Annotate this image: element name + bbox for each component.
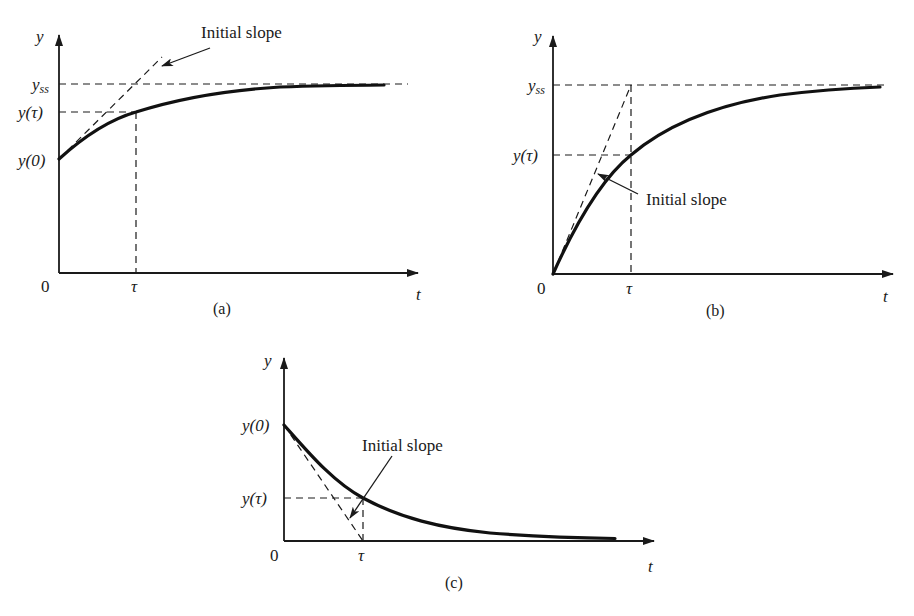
annotation-pointer (162, 48, 210, 66)
ytau-label: y(τ) (511, 146, 538, 165)
panel-caption: (a) (213, 300, 231, 318)
origin-label: 0 (41, 277, 50, 296)
x-axis-label: t (648, 557, 654, 576)
panel-c: y y(0) Initial slope y(τ) 0 τ t (c) (240, 351, 654, 592)
ytau-label: y(τ) (240, 489, 267, 508)
y-axis-label: y (34, 27, 44, 46)
tau-tick-label: τ (626, 279, 633, 298)
response-curve (553, 87, 880, 274)
y-axis-label: y (532, 27, 542, 46)
origin-label: 0 (270, 546, 279, 565)
yss-label: yss (30, 75, 49, 96)
panel-a: y Initial slope yss y(τ) y(0) 0 τ t (a) (16, 23, 422, 318)
annotation-label: Initial slope (362, 436, 443, 455)
tau-tick-label: τ (358, 546, 365, 565)
x-axis-label: t (416, 285, 422, 304)
ytau-label: y(τ) (16, 103, 43, 122)
y-axis-label: y (262, 351, 272, 370)
annotation-label: Initial slope (646, 190, 727, 209)
panel-caption: (c) (445, 574, 463, 592)
x-axis-label: t (883, 287, 889, 306)
panel-b: y yss y(τ) Initial slope 0 τ t (b) (511, 27, 893, 320)
yss-label: yss (526, 76, 545, 97)
y0-label: y(0) (16, 151, 46, 170)
origin-label: 0 (537, 279, 546, 298)
tau-tick-label: τ (131, 277, 138, 296)
response-curve (59, 85, 384, 159)
panel-caption: (b) (706, 302, 725, 320)
figure-canvas: y Initial slope yss y(τ) y(0) 0 τ t (a) … (0, 0, 914, 616)
y0-label: y(0) (240, 416, 270, 435)
annotation-label: Initial slope (201, 23, 282, 42)
initial-slope-tangent (284, 425, 363, 541)
response-curve (284, 425, 615, 539)
